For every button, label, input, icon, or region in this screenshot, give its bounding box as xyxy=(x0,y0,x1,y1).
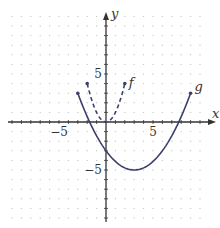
series-label-g: g xyxy=(195,79,203,94)
labels: x y −5 5 5 −5 f g xyxy=(50,6,220,177)
y-axis-label: y xyxy=(110,6,119,21)
y-axis-arrow-icon xyxy=(103,12,109,20)
y-tick-label-5: 5 xyxy=(94,67,102,81)
chart-plot: x y −5 5 5 −5 f g xyxy=(0,0,220,228)
x-tick-label-5: 5 xyxy=(149,125,157,139)
x-axis-label: x xyxy=(212,106,220,121)
curves xyxy=(76,82,192,170)
y-tick-label-neg5: −5 xyxy=(84,163,102,177)
endpoint-dot xyxy=(85,82,89,86)
endpoint-dot xyxy=(76,91,80,95)
endpoint-dot xyxy=(123,82,127,86)
series-label-f: f xyxy=(128,75,136,90)
endpoint-dot xyxy=(189,91,193,95)
x-tick-label-neg5: −5 xyxy=(50,125,68,139)
